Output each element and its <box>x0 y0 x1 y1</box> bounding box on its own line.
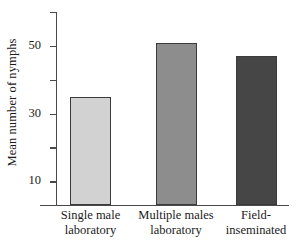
bar-2 <box>156 43 197 206</box>
y-axis-tick-label: 30 <box>29 106 42 121</box>
y-axis-tick <box>50 147 57 148</box>
x-axis-tick-labels: Single malelaboratoryMultiple maleslabor… <box>56 208 297 249</box>
x-axis-label-line2: inseminated <box>196 223 305 238</box>
x-axis-line <box>40 205 289 206</box>
y-axis-line <box>56 12 57 205</box>
bar-1 <box>70 97 111 205</box>
x-axis-label-line1: Single male <box>61 208 120 222</box>
y-axis-tick: 50 <box>50 46 57 47</box>
x-axis-label-line1: Field- <box>241 208 271 222</box>
x-axis-label-3: Field-inseminated <box>196 208 305 237</box>
y-axis-tick: 10 <box>50 181 57 182</box>
y-axis-tick: 30 <box>50 114 57 115</box>
y-axis-tick <box>50 12 57 13</box>
plot-area: 503010 <box>56 12 297 205</box>
bar-chart-figure: Mean number of nymphs 503010 Single male… <box>0 0 305 249</box>
y-axis-tick-label: 10 <box>29 173 42 188</box>
y-axis-tick <box>50 80 57 81</box>
bar-3 <box>236 56 277 205</box>
y-axis-title: Mean number of nymphs <box>5 38 20 166</box>
y-axis-title-container: Mean number of nymphs <box>0 0 24 205</box>
y-axis-tick-label: 50 <box>29 38 42 53</box>
